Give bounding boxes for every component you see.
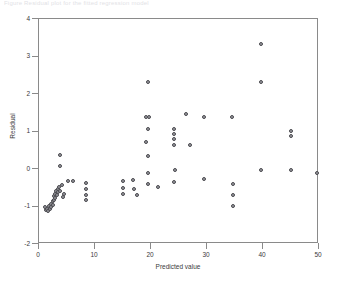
y-axis-tick	[32, 18, 38, 19]
x-axis-label: Predicted value	[38, 263, 318, 271]
residual-plot-figure: Figure Residual plot for the fitted regr…	[0, 0, 339, 282]
y-axis-tick-label: -2	[4, 240, 30, 247]
y-axis-tick	[32, 206, 38, 207]
y-axis-label: Residual	[9, 96, 17, 156]
x-axis-tick	[150, 243, 151, 249]
x-axis-tick-label: 0	[25, 251, 51, 259]
y-axis-tick	[32, 131, 38, 132]
x-axis-tick-label: 20	[137, 251, 163, 259]
x-axis-tick-label: 40	[249, 251, 275, 259]
y-axis-tick	[32, 56, 38, 57]
y-axis-tick-label: 1	[4, 127, 30, 134]
x-axis-tick	[318, 243, 319, 249]
y-axis-tick-label: 2	[4, 90, 30, 97]
y-axis-tick-label: 0	[4, 165, 30, 172]
x-axis-tick	[262, 243, 263, 249]
y-axis-tick-label: 3	[4, 52, 30, 59]
plot-area	[38, 18, 318, 243]
x-axis-tick-label: 10	[81, 251, 107, 259]
y-axis-tick	[32, 168, 38, 169]
y-axis-tick-label: 4	[4, 15, 30, 22]
y-axis-tick	[32, 93, 38, 94]
clipped-caption: Figure Residual plot for the fitted regr…	[4, 0, 184, 7]
x-axis-tick-label: 50	[305, 251, 331, 259]
y-axis-tick-label: -1	[4, 202, 30, 209]
x-axis-tick	[94, 243, 95, 249]
x-axis-tick-label: 30	[193, 251, 219, 259]
x-axis-tick	[38, 243, 39, 249]
x-axis-tick	[206, 243, 207, 249]
